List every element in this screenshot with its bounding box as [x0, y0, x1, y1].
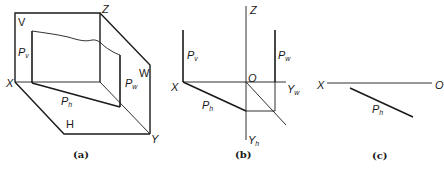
ph-trace-a [32, 83, 120, 107]
label-pv-a: Pv [18, 47, 29, 59]
caption-b: (b) [235, 149, 251, 160]
label-ph-c: Ph [372, 104, 383, 116]
label-yh-b: Yh [248, 135, 259, 147]
label-x-b: X [171, 82, 178, 93]
caption-a: (a) [73, 149, 89, 160]
ph-trace-b [183, 82, 246, 111]
label-pw-a: Pw [125, 78, 137, 90]
label-z-a: Z [102, 4, 109, 15]
label-x-c: X [317, 80, 324, 91]
label-w-plane: W [139, 68, 149, 79]
label-ph-a: Ph [61, 96, 72, 108]
label-yw-b: Yw [287, 84, 299, 96]
label-z-b: Z [250, 5, 257, 16]
label-x-a: X [6, 78, 13, 89]
label-h-plane: H [66, 119, 74, 130]
45-degree-line [246, 82, 286, 125]
panel-a-drawing [15, 13, 150, 134]
label-pv-b: Pv [187, 50, 198, 62]
label-o-c: O [435, 80, 444, 91]
label-pw-b: Pw [278, 50, 290, 62]
caption-c: (c) [372, 150, 388, 161]
label-ph-b: Ph [202, 100, 213, 112]
plane-p-wavy-edge [32, 31, 120, 55]
label-v-plane: V [18, 17, 25, 28]
label-o-b: O [248, 73, 257, 84]
panel-b-drawing [183, 6, 286, 140]
label-y-a: Y [151, 134, 158, 145]
